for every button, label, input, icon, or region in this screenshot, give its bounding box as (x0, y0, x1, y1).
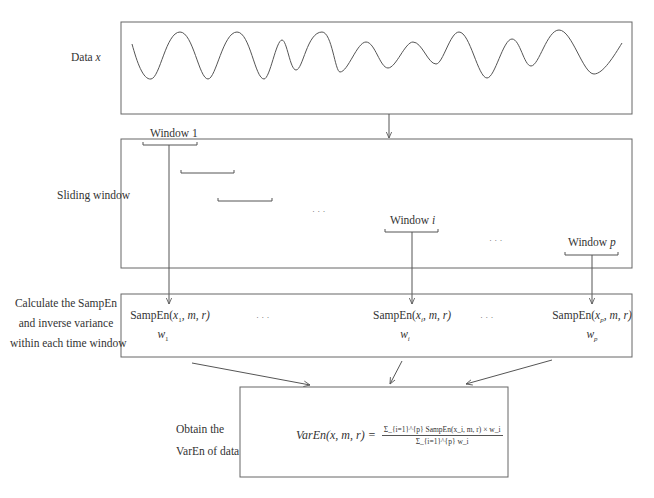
sliding-window-box (121, 139, 632, 268)
varen-formula: VarEn(x, m, r) = Σ_{i=1}^{p} SampEn(x_i,… (296, 425, 503, 446)
ellipsis-windows-1: · · · (312, 207, 326, 216)
formula-fraction: Σ_{i=1}^{p} SampEn(x_i, m, r) × w_i Σ_{i… (382, 425, 503, 446)
ellipsis-windows-2: · · · (489, 236, 503, 245)
window-1-bracket (143, 142, 197, 145)
window-2-bracket (181, 170, 234, 173)
sampen-cell-i: SampEn(xi, m, r) wi (370, 308, 454, 347)
formula-denominator: Σ_{i=1}^{p} w_i (416, 436, 469, 446)
signal-waveform (132, 30, 622, 79)
ellipsis-sampen-2: · · · (480, 313, 494, 322)
arrow-right-to-varen (466, 360, 552, 384)
formula-numerator: Σ_{i=1}^{p} SampEn(x_i, m, r) × w_i (382, 425, 503, 436)
sliding-window-label: Sliding window (57, 190, 130, 202)
arrow-left-to-varen (192, 363, 310, 385)
data-x-label: Data x (71, 52, 101, 64)
window-p-bracket (565, 252, 618, 255)
window-p-label: Window p (568, 237, 616, 249)
window-1-label: Window 1 (150, 128, 198, 140)
window-3-bracket (218, 198, 272, 201)
obtain-varen-label: Obtain the VarEn of data (176, 418, 236, 462)
sampen-cell-1: SampEn(x1, m, r) w1 (128, 308, 212, 347)
calculate-label: Calculate the SampEn and inverse varianc… (10, 293, 122, 353)
ellipsis-sampen-1: · · · (256, 313, 270, 322)
sampen-cell-p: SampEn(xp, m, r) wp (550, 308, 634, 347)
formula-lhs: VarEn(x, m, r) = (296, 428, 376, 443)
data-box (121, 22, 632, 114)
arrow-mid-to-varen (390, 361, 402, 384)
diagram-canvas (0, 0, 654, 498)
window-i-label: Window i (390, 215, 435, 227)
window-i-bracket (385, 229, 438, 232)
